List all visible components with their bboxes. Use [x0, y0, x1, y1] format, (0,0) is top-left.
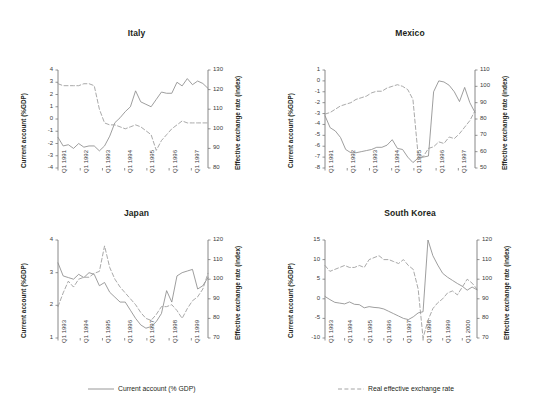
- series-line-current-account: [325, 240, 477, 320]
- y-axis-title-left: Current account (%GDP): [287, 93, 294, 168]
- series-line-reer: [58, 84, 208, 151]
- chart-panel-italy: Italy-4-3-2-1012348090100110120130Q1 199…: [0, 22, 273, 202]
- y-axis-title-left: Current account (%GDP): [20, 93, 27, 168]
- series-line-reer: [325, 256, 477, 338]
- series-line-reer: [325, 85, 475, 157]
- y-axis-title-right: Effective exchange rate (index): [234, 76, 241, 170]
- legend-label: Real effective exchange rate: [368, 385, 454, 392]
- series-line-current-account: [58, 263, 208, 328]
- chart-panel-mexico: Mexico-8-7-6-5-4-3-2-1015060708090100110…: [273, 22, 547, 202]
- legend-line-swatch: [88, 386, 114, 392]
- y-axis-title-right: Effective exchange rate (index): [503, 246, 510, 340]
- chart-panel-japan: Japan1234708090100110120Q1 1993Q1 1994Q1…: [0, 202, 273, 372]
- figure-panel-grid: Italy-4-3-2-1012348090100110120130Q1 199…: [0, 0, 547, 417]
- series-line-reer: [58, 246, 208, 320]
- legend-label: Current account (% GDP): [118, 385, 195, 392]
- series-line-current-account: [325, 81, 475, 163]
- legend-current-account: Current account (% GDP): [88, 385, 195, 392]
- legend-reer: Real effective exchange rate: [338, 385, 454, 392]
- legend-line-swatch: [338, 386, 364, 392]
- series-line-current-account: [58, 79, 208, 151]
- chart-panel-south-korea: South Korea-10-5051015708090100110120Q1 …: [273, 202, 547, 372]
- y-axis-title-right: Effective exchange rate (index): [501, 76, 508, 170]
- y-axis-title-left: Current account (%GDP): [287, 263, 294, 338]
- plot-area: [0, 202, 273, 372]
- y-axis-title-right: Effective exchange rate (index): [234, 246, 241, 340]
- y-axis-title-left: Current account (%GDP): [20, 263, 27, 338]
- plot-area: [0, 22, 273, 202]
